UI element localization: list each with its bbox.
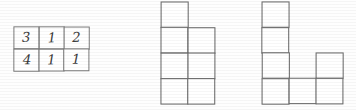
table-cell-value: 4 <box>22 51 32 67</box>
figure-svg: 312411 <box>0 0 356 110</box>
polyomino-middle <box>161 2 215 104</box>
polyomino-right <box>262 2 343 104</box>
table-cell-value: 2 <box>71 29 81 45</box>
table-cell-value: 3 <box>21 29 30 45</box>
polyomino-cell <box>161 27 188 53</box>
table-cell-value: 1 <box>47 29 56 45</box>
polyomino-cell <box>161 2 188 27</box>
polyomino-cell <box>262 2 289 27</box>
figure-canvas: 312411 <box>0 0 356 110</box>
polyomino-cell <box>262 79 289 105</box>
table-cell-value: 1 <box>72 51 81 67</box>
polyomino-cell <box>161 53 188 78</box>
number-grid: 312411 <box>14 27 89 71</box>
polyomino-cell <box>262 28 289 54</box>
polyomino-cell <box>262 53 289 78</box>
polyomino-cell <box>316 78 343 104</box>
table-cell-value: 1 <box>47 51 56 67</box>
polyomino-cell <box>188 28 215 54</box>
polyomino-cell <box>289 78 316 103</box>
polyomino-cell <box>188 53 215 79</box>
polyomino-cell <box>188 79 215 105</box>
polyomino-cell <box>161 79 188 104</box>
polyomino-cell <box>316 53 343 78</box>
